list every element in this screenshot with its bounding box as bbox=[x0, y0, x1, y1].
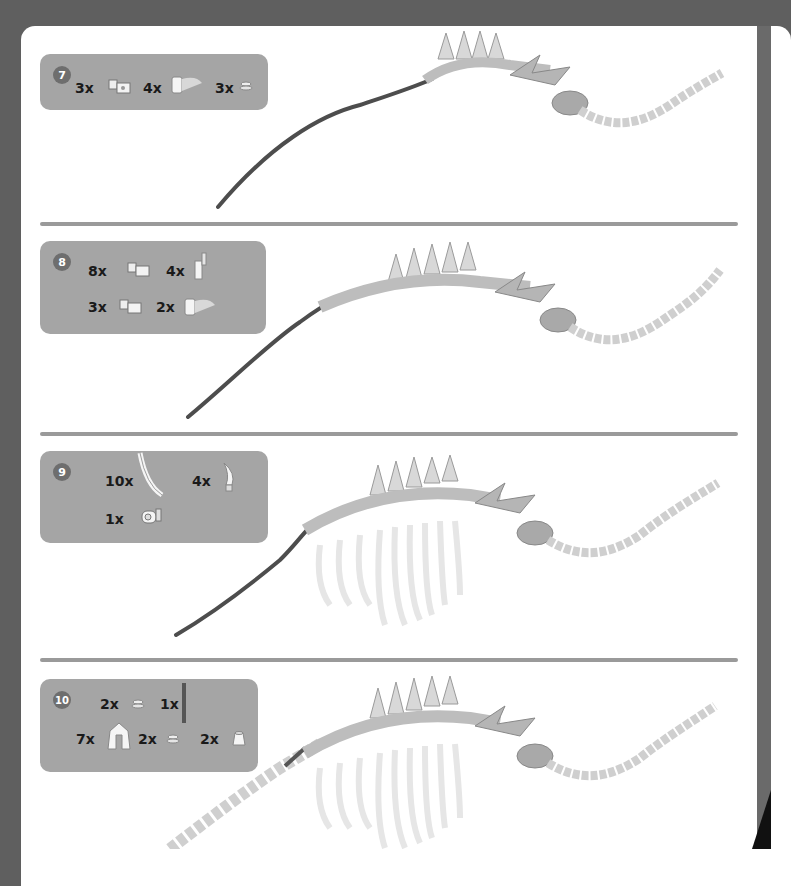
step-number-badge: 9 bbox=[53, 463, 71, 481]
step-divider bbox=[40, 222, 738, 226]
part-quantity: 4x bbox=[143, 80, 162, 96]
axle-connector-block-icon bbox=[126, 259, 152, 279]
part-quantity: 3x bbox=[88, 299, 107, 315]
cape-slope-piece-icon bbox=[106, 721, 132, 751]
step-divider bbox=[40, 432, 738, 436]
round-plate-stack-icon bbox=[131, 698, 145, 712]
step-number-badge: 10 bbox=[53, 691, 71, 709]
part-quantity: 1x bbox=[105, 511, 124, 527]
axle-connector-block-icon bbox=[107, 76, 133, 96]
part-quantity: 7x bbox=[76, 731, 95, 747]
assembly-illustration-step-9 bbox=[170, 445, 730, 645]
step-number-badge: 8 bbox=[53, 253, 71, 271]
assembly-illustration-step-7 bbox=[210, 25, 730, 215]
step-divider bbox=[40, 658, 738, 662]
assembly-illustration-step-8 bbox=[180, 232, 730, 422]
part-quantity: 2x bbox=[138, 731, 157, 747]
step-number-badge: 7 bbox=[53, 66, 71, 84]
part-quantity: 8x bbox=[88, 263, 107, 279]
curved-slope-piece-icon bbox=[170, 71, 204, 95]
page-edge bbox=[757, 26, 771, 849]
part-quantity: 2x bbox=[156, 299, 175, 315]
assembly-illustration-step-10 bbox=[160, 668, 730, 849]
part-quantity: 2x bbox=[100, 696, 119, 712]
long-curved-rib-icon bbox=[136, 451, 166, 499]
pin-connector-icon bbox=[138, 505, 164, 527]
part-quantity: 10x bbox=[105, 473, 134, 489]
part-quantity: 3x bbox=[75, 80, 94, 96]
axle-connector-block-icon bbox=[118, 296, 144, 316]
